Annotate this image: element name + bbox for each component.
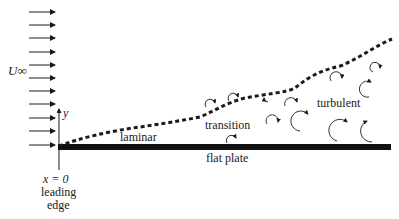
eddy-icon xyxy=(266,115,278,124)
eddy-icon xyxy=(291,111,308,131)
y-axis-label: y xyxy=(63,107,68,119)
eddy-icon xyxy=(226,135,236,143)
turbulent-label: turbulent xyxy=(317,97,360,109)
eddy-icon xyxy=(361,121,372,142)
eddy-icon xyxy=(329,119,347,141)
leading-edge-label-line1: leading xyxy=(41,186,76,198)
eddy-icon xyxy=(330,72,342,81)
free-stream-arrows xyxy=(29,12,55,145)
eddy-icon xyxy=(205,99,215,107)
leading-edge-label-line2: edge xyxy=(47,199,70,211)
flat-plate-label: flat plate xyxy=(206,152,248,164)
eddy-icon xyxy=(359,81,371,97)
free-stream-velocity-label: U∞ xyxy=(8,65,27,77)
eddy-icon xyxy=(370,62,380,72)
eddy-icon xyxy=(264,98,268,102)
flat-plate xyxy=(58,144,391,150)
transition-label: transition xyxy=(205,119,250,131)
origin-coordinate-label: x = 0 xyxy=(43,173,68,185)
eddy-icon xyxy=(285,98,297,106)
laminar-label: laminar xyxy=(120,131,157,143)
